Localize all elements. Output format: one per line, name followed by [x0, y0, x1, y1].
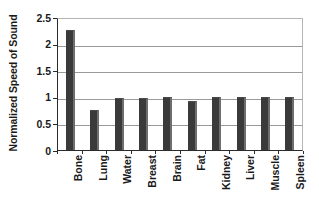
x-tick-label-brain: Brain — [172, 128, 183, 155]
x-tick-label-muscle: Muscle — [270, 119, 281, 155]
x-tick-label-liver: Liver — [245, 130, 256, 155]
bar-kidney[interactable] — [212, 97, 221, 150]
y-axis-title: Normalized Speed of Sound — [4, 12, 22, 154]
x-label-slot: Breast — [131, 155, 156, 197]
x-label-slot: Muscle — [254, 155, 279, 197]
x-tick-label-bone: Bone — [73, 129, 84, 155]
bar-muscle[interactable] — [261, 97, 270, 150]
x-tick-label-breast: Breast — [147, 122, 158, 155]
y-tick-label: 0 — [24, 146, 51, 157]
bar-spleen[interactable] — [285, 97, 294, 150]
x-label-slot: Water — [106, 155, 131, 197]
y-tick-label: 2.5 — [24, 13, 51, 24]
x-axis-tick-labels: BoneLungWaterBreastBrainFatKidneyLiverMu… — [57, 155, 303, 197]
x-tick-label-fat: Fat — [196, 139, 207, 155]
x-label-slot: Spleen — [278, 155, 303, 197]
x-label-slot: Kidney — [205, 155, 230, 197]
x-label-slot: Liver — [229, 155, 254, 197]
x-tick-label-lung: Lung — [98, 129, 109, 155]
y-tick-label: 1.5 — [24, 66, 51, 77]
x-label-slot: Brain — [155, 155, 180, 197]
x-label-slot: Lung — [82, 155, 107, 197]
x-label-slot: Bone — [57, 155, 82, 197]
x-tick-label-water: Water — [122, 126, 133, 155]
bar-chart: Normalized Speed of Sound 00.511.522.5 B… — [0, 0, 319, 197]
y-axis-title-text: Normalized Speed of Sound — [7, 15, 19, 152]
bar-slot — [180, 19, 204, 150]
x-tick-label-text: Spleen — [295, 155, 306, 189]
bar-brain[interactable] — [163, 97, 172, 150]
y-tick-label: 0.5 — [24, 119, 51, 130]
x-tick-mark — [57, 151, 58, 154]
y-axis-tick-labels: 00.511.522.5 — [24, 13, 51, 155]
x-label-slot: Fat — [180, 155, 205, 197]
x-tick-label-spleen: Spleen — [295, 121, 306, 155]
y-tick-label: 2 — [24, 39, 51, 50]
y-tick-label: 1 — [24, 92, 51, 103]
x-tick-label-kidney: Kidney — [221, 120, 232, 155]
